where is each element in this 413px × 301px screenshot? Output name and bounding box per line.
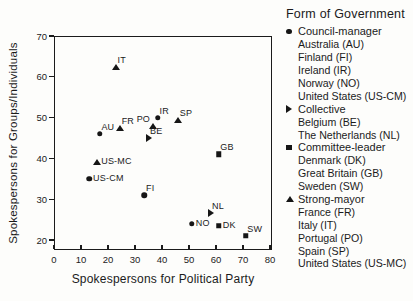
y-tick xyxy=(49,76,55,77)
data-point-label-PO: PO xyxy=(137,114,150,124)
legend-country-label: Italy (IT) xyxy=(286,219,337,231)
legend-country: The Netherlands (NL) xyxy=(286,128,412,141)
x-tick xyxy=(80,245,81,250)
legend-group-label: Strong-mayor xyxy=(298,193,365,205)
legend-country: Great Britain (GB) xyxy=(286,167,412,180)
x-tick xyxy=(134,245,135,250)
x-tick-label: 20 xyxy=(103,254,114,265)
triangle-up-icon xyxy=(286,196,298,202)
legend-group-committee-leader: Committee-leader xyxy=(286,141,412,154)
data-point-SW xyxy=(243,233,249,239)
square-glyph xyxy=(286,145,292,151)
circle-icon xyxy=(286,29,298,35)
data-point-NO xyxy=(189,221,195,227)
legend-country: Portugal (PO) xyxy=(286,231,412,244)
y-tick xyxy=(49,199,55,200)
legend-country-label: United States (US-MC) xyxy=(286,257,406,269)
legend-country-label: Great Britain (GB) xyxy=(286,167,383,179)
legend-country: Norway (NO) xyxy=(286,77,412,90)
legend-country-label: Sweden (SW) xyxy=(286,180,363,192)
y-tick-label: 50 xyxy=(25,112,47,123)
legend-country: Ireland (IR) xyxy=(286,64,412,77)
legend-country: Australia (AU) xyxy=(286,38,412,51)
data-point-label-DK: DK xyxy=(223,220,236,230)
legend: Form of Government Council-managerAustra… xyxy=(286,7,412,270)
legend-country-label: Spain (SP) xyxy=(286,245,349,257)
legend-country-label: Belgium (BE) xyxy=(286,116,360,128)
data-point-US-CM xyxy=(86,176,92,182)
legend-country: Denmark (DK) xyxy=(286,154,412,167)
x-tick-label: 10 xyxy=(76,254,87,265)
data-point-label-FI: FI xyxy=(146,183,154,193)
data-point-GB xyxy=(216,152,222,158)
x-tick-label: 70 xyxy=(238,254,249,265)
y-axis-title: Spokespersons for Groups/Individuals xyxy=(7,42,19,244)
legend-country: Sweden (SW) xyxy=(286,180,412,193)
y-tick-label: 70 xyxy=(25,31,47,42)
legend-country: France (FR) xyxy=(286,205,412,218)
legend-country-label: United States (US-CM) xyxy=(286,90,406,102)
y-tick xyxy=(49,117,55,118)
legend-items: Council-managerAustralia (AU)Finland (FI… xyxy=(286,25,412,270)
legend-group-label: Committee-leader xyxy=(298,141,385,153)
data-point-label-AU: AU xyxy=(101,122,114,132)
legend-country-label: Norway (NO) xyxy=(286,77,360,89)
data-point-DK xyxy=(216,223,222,229)
data-point-label-SP: SP xyxy=(180,108,192,118)
x-tick xyxy=(215,245,216,250)
x-tick xyxy=(53,245,54,250)
legend-country-label: Denmark (DK) xyxy=(286,154,366,166)
data-point-label-NO: NO xyxy=(196,218,210,228)
data-point-label-IR: IR xyxy=(159,106,168,116)
legend-country: Spain (SP) xyxy=(286,244,412,257)
x-tick-label: 50 xyxy=(184,254,195,265)
legend-country-label: The Netherlands (NL) xyxy=(286,129,400,141)
y-tick xyxy=(49,35,55,36)
legend-group-strong-mayor: Strong-mayor xyxy=(286,193,412,206)
plot-area xyxy=(54,36,272,250)
square-icon xyxy=(286,145,298,151)
y-tick-label: 40 xyxy=(25,153,47,164)
legend-country-label: Portugal (PO) xyxy=(286,232,363,244)
x-tick-label: 0 xyxy=(51,254,56,265)
x-tick xyxy=(161,245,162,250)
x-tick-label: 60 xyxy=(211,254,222,265)
data-point-label-GB: GB xyxy=(220,142,233,152)
data-point-label-US-CM: US-CM xyxy=(93,173,124,183)
legend-country-label: Ireland (IR) xyxy=(286,64,351,76)
x-tick xyxy=(269,245,270,250)
triangle-right-icon xyxy=(286,105,298,113)
x-tick-label: 30 xyxy=(130,254,141,265)
triangle-right-glyph xyxy=(286,105,292,113)
y-tick xyxy=(49,239,55,240)
x-axis-title: Spokespersons for Political Party xyxy=(54,272,272,286)
legend-country-label: Australia (AU) xyxy=(286,38,364,50)
legend-country: Finland (FI) xyxy=(286,51,412,64)
triangle-up-glyph xyxy=(286,196,294,202)
data-point-label-FR: FR xyxy=(122,116,134,126)
data-point-US-MC xyxy=(93,159,101,165)
legend-group-collective: Collective xyxy=(286,102,412,115)
x-tick xyxy=(188,245,189,250)
legend-group-council-manager: Council-manager xyxy=(286,25,412,38)
legend-country: United States (US-CM) xyxy=(286,89,412,102)
y-tick-label: 20 xyxy=(25,235,47,246)
legend-country: Belgium (BE) xyxy=(286,115,412,128)
legend-country-label: France (FR) xyxy=(286,206,355,218)
y-tick xyxy=(49,158,55,159)
y-tick-label: 30 xyxy=(25,194,47,205)
data-point-FI xyxy=(142,192,148,198)
data-point-AU xyxy=(97,131,103,137)
legend-country-label: Finland (FI) xyxy=(286,51,352,63)
legend-country: Italy (IT) xyxy=(286,218,412,231)
data-point-label-IT: IT xyxy=(118,55,126,65)
legend-title: Form of Government xyxy=(286,7,412,21)
x-tick-label: 80 xyxy=(265,254,276,265)
legend-country: United States (US-MC) xyxy=(286,257,412,270)
x-tick xyxy=(107,245,108,250)
data-point-label-US-MC: US-MC xyxy=(101,157,132,167)
data-point-label-NL: NL xyxy=(212,201,224,211)
data-point-label-SW: SW xyxy=(247,224,262,234)
legend-group-label: Collective xyxy=(298,103,346,115)
y-tick-label: 60 xyxy=(25,71,47,82)
